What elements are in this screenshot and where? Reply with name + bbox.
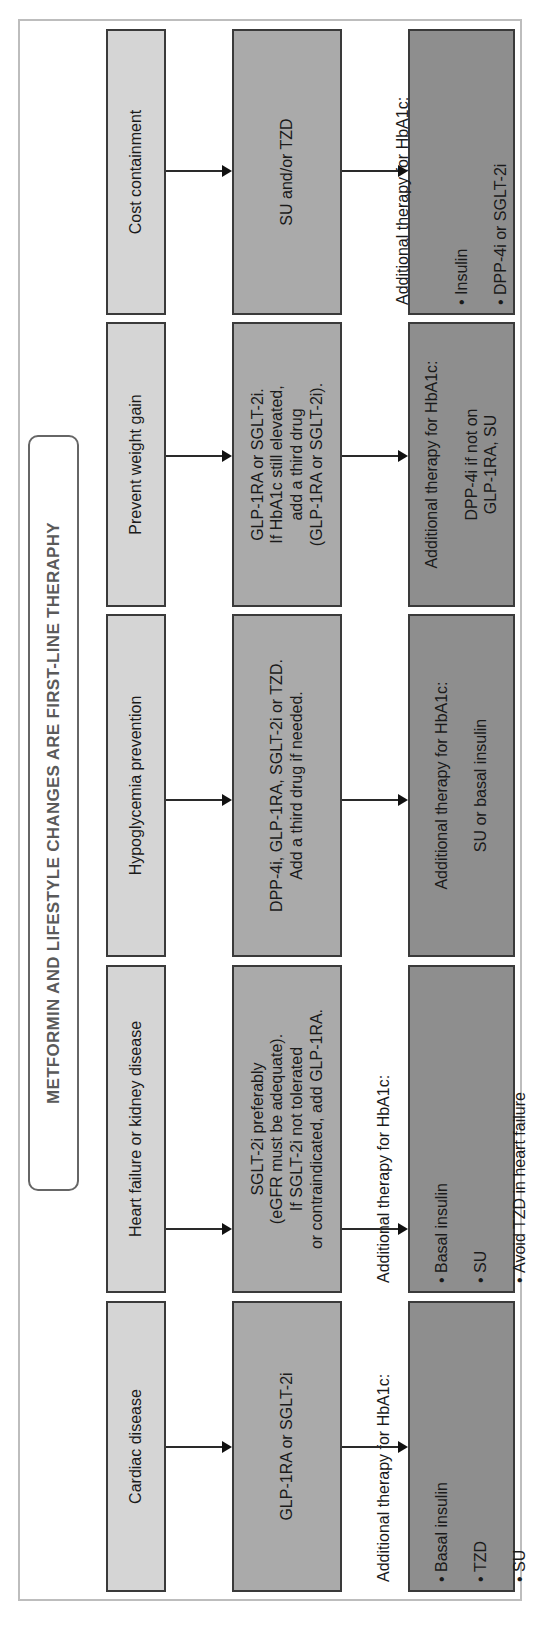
arrow-down-icon [166, 1446, 228, 1448]
therapy-cost-containment: SU and/or TZD [232, 29, 342, 315]
therapy-cardiac-disease: GLP-1RA or SGLT-2i [232, 1301, 342, 1592]
arrow-down-icon [342, 455, 404, 457]
diagram-title: METFORMIN AND LIFESTYLE CHANGES ARE FIRS… [28, 435, 79, 1191]
arrow-down-icon [222, 165, 232, 177]
arrow-down-icon [398, 450, 408, 462]
condition-cost-containment: Cost containment [106, 29, 166, 315]
additional-heading: Additional therapy for HbA1c: [374, 1374, 394, 1582]
arrow-down-icon [166, 170, 228, 172]
therapy-prevent-weight-gain: GLP-1RA or SGLT-2i. If HbA1c still eleva… [232, 322, 342, 607]
arrow-down-icon [166, 455, 228, 457]
arrow-down-icon [342, 1446, 404, 1448]
arrow-down-icon [398, 165, 408, 177]
therapy-hypoglycemia-prevention: DPP-4i, GLP-1RA, SGLT-2i or TZD. Add a t… [232, 614, 342, 957]
additional-cardiac-disease: Additional therapy for HbA1c: Basal insu… [408, 1301, 515, 1592]
arrow-down-icon [222, 1441, 232, 1453]
arrow-down-icon [398, 794, 408, 806]
arrow-down-icon [222, 450, 232, 462]
additional-text: DPP-4i if not on GLP-1RA, SU [462, 360, 501, 568]
diabetes-therapy-diagram: METFORMIN AND LIFESTYLE CHANGES ARE FIRS… [0, 0, 559, 1637]
arrow-down-icon [166, 799, 228, 801]
additional-item: Basal insulin [432, 1374, 452, 1582]
arrow-down-icon [342, 1228, 404, 1230]
arrow-down-icon [398, 1441, 408, 1453]
additional-text: SU or basal insulin [471, 681, 491, 889]
additional-hypoglycemia-prevention: Additional therapy for HbA1c: SU or basa… [408, 614, 515, 957]
arrow-down-icon [166, 1228, 228, 1230]
additional-heart-failure: Additional therapy for HbA1c: Basal insu… [408, 965, 515, 1293]
arrow-down-icon [222, 794, 232, 806]
additional-heading: Additional therapy for HbA1c: [393, 97, 413, 305]
condition-cardiac-disease: Cardiac disease [106, 1301, 166, 1592]
additional-cost-containment: Additional therapy for HbA1c: Insulin DP… [408, 29, 515, 315]
arrow-down-icon [222, 1223, 232, 1235]
additional-heading: Additional therapy for HbA1c: [422, 360, 442, 568]
additional-item: Basal insulin [432, 1075, 452, 1283]
additional-item: SU [471, 1075, 491, 1283]
condition-heart-failure: Heart failure or kidney disease [106, 965, 166, 1293]
therapy-heart-failure: SGLT-2i preferably (eGFR must be adequat… [232, 965, 342, 1293]
additional-heading: Additional therapy for HbA1c: [374, 1075, 394, 1283]
additional-heading: Additional therapy for HbA1c: [432, 681, 452, 889]
condition-prevent-weight-gain: Prevent weight gain [106, 322, 166, 607]
arrow-down-icon [398, 1223, 408, 1235]
additional-prevent-weight-gain: Additional therapy for HbA1c: DPP-4i if … [408, 322, 515, 607]
condition-hypoglycemia-prevention: Hypoglycemia prevention [106, 614, 166, 957]
arrow-down-icon [342, 799, 404, 801]
arrow-down-icon [342, 170, 404, 172]
additional-item: SU [510, 1374, 530, 1582]
additional-item: Insulin [452, 97, 472, 305]
additional-item: DPP-4i or SGLT-2i [491, 97, 511, 305]
additional-item: Avoid TZD in heart failure [510, 1075, 530, 1283]
additional-item: TZD [471, 1374, 491, 1582]
